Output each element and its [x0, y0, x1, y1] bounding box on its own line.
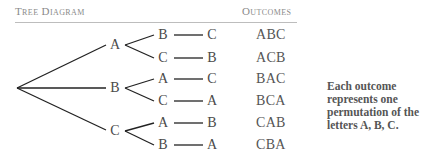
- outcome-item: BAC: [256, 72, 286, 86]
- tree-node-l2: A: [158, 72, 168, 86]
- outcome-item: CAB: [256, 116, 286, 130]
- tree-node-l3: A: [207, 138, 217, 152]
- tree-node-l3: B: [207, 51, 216, 65]
- tree-node-l3: A: [207, 94, 217, 108]
- outcome-item: ACB: [256, 51, 286, 65]
- outcome-item: BCA: [256, 94, 286, 108]
- tree-node-l1-c: C: [110, 124, 119, 138]
- tree-node-l3: C: [207, 28, 216, 42]
- tree-node-l1-b: B: [110, 81, 119, 95]
- tree-node-l2: B: [158, 138, 167, 152]
- tree-node-l3: C: [207, 72, 216, 86]
- outcome-item: CBA: [256, 138, 286, 152]
- tree-node-l3: B: [207, 116, 216, 130]
- explanation-note: Each outcome represents one permutation …: [327, 80, 438, 132]
- outcome-item: ABC: [256, 28, 286, 42]
- tree-node-l2: C: [158, 51, 167, 65]
- tree-branches: [0, 0, 438, 157]
- tree-node-l1-a: A: [110, 38, 120, 52]
- tree-node-l2: B: [158, 28, 167, 42]
- tree-node-l2: C: [158, 94, 167, 108]
- tree-node-l2: A: [158, 116, 168, 130]
